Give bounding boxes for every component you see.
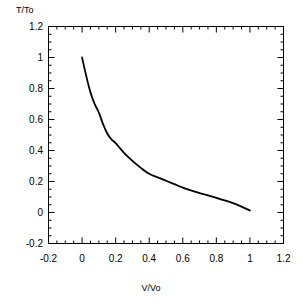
y-tick-label: 1.2 (7, 21, 43, 32)
y-tick-label: 0.6 (7, 114, 43, 125)
y-tick-label: 1 (7, 52, 43, 63)
x-tick-label: 1.2 (264, 253, 303, 264)
chart-figure: T/To V/Vo 1.210.80.60.40.20-0.2 -0.200.2… (0, 0, 302, 304)
y-tick-label: 0.8 (7, 83, 43, 94)
axis-ticks (49, 27, 284, 244)
y-tick-label: -0.2 (7, 238, 43, 249)
y-tick-label: 0.2 (7, 176, 43, 187)
y-tick-label: 0 (7, 207, 43, 218)
y-tick-label: 0.4 (7, 145, 43, 156)
axes-frame (49, 27, 284, 244)
data-series (82, 58, 250, 211)
